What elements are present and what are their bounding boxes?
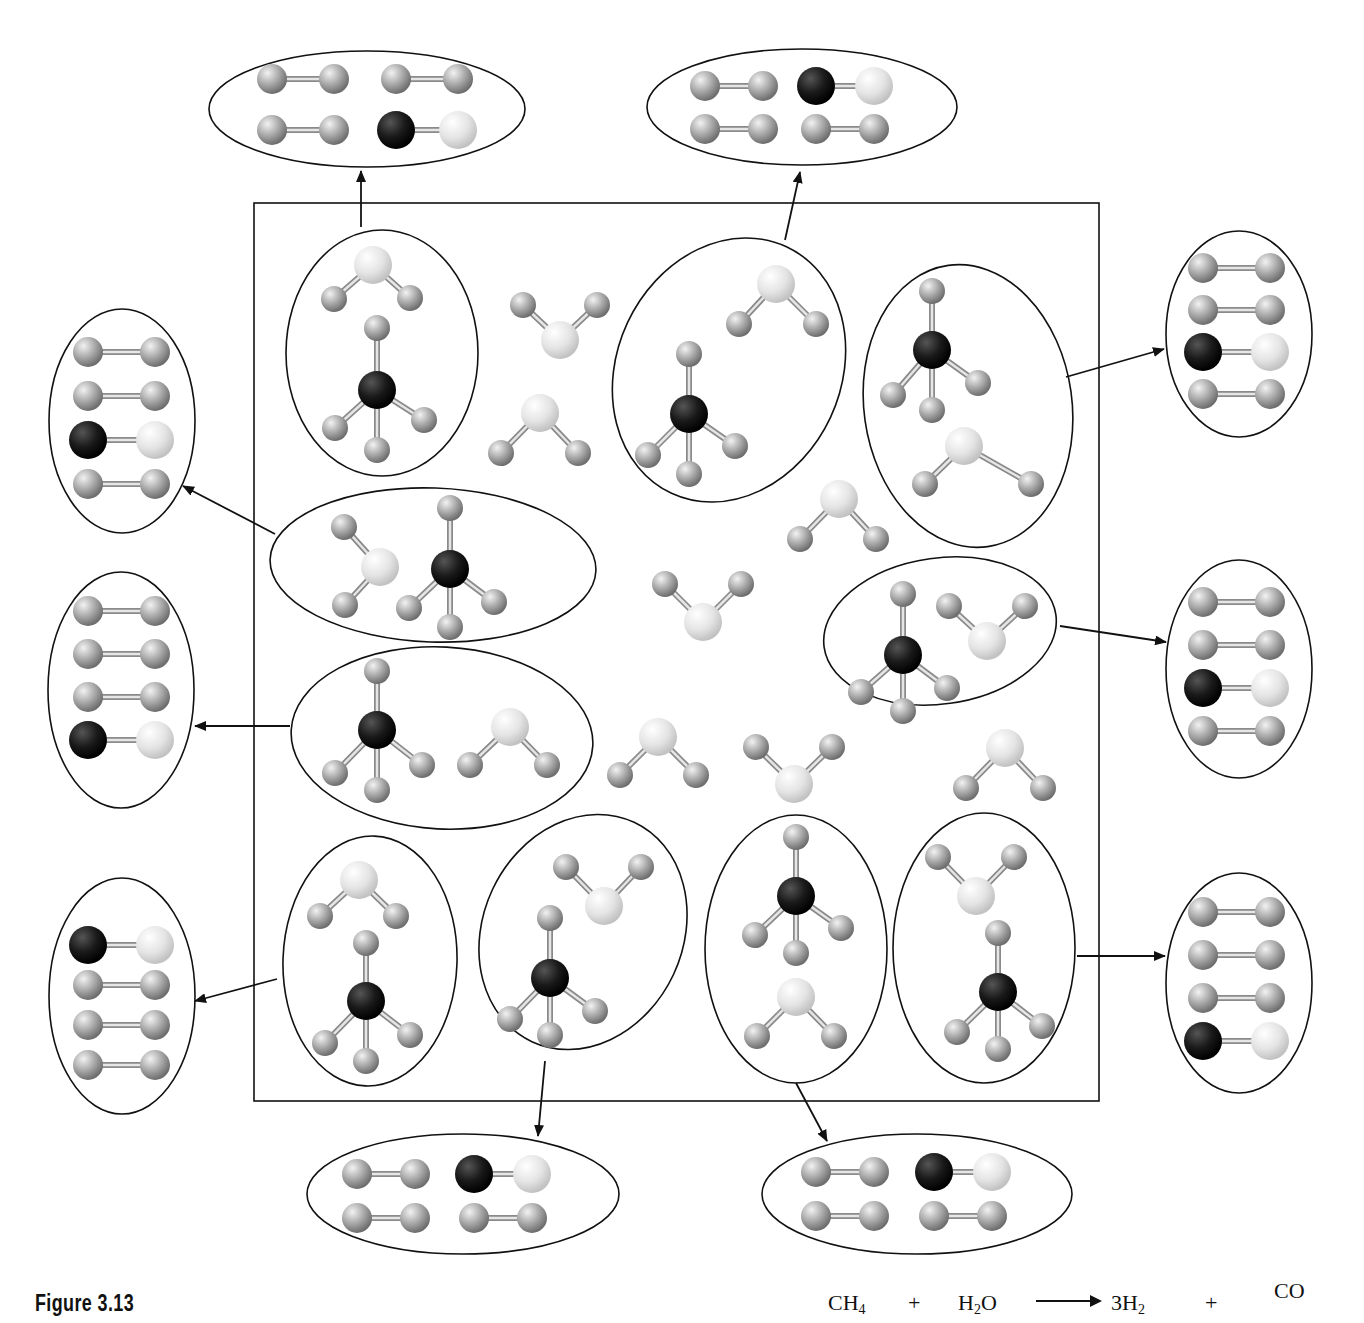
carbon-atom bbox=[455, 1155, 493, 1193]
hydrogen-atom bbox=[140, 381, 170, 411]
hydrogen-atom bbox=[73, 682, 103, 712]
oxygen-atom bbox=[820, 480, 858, 518]
hydrogen-atom bbox=[1255, 379, 1285, 409]
hydrogen-atom bbox=[1255, 940, 1285, 970]
hydrogen-atom bbox=[517, 1203, 547, 1233]
hydrogen-atom bbox=[584, 292, 610, 318]
hydrogen-atom bbox=[73, 596, 103, 626]
carbon-atom bbox=[69, 721, 107, 759]
hydrogen-atom bbox=[1188, 897, 1218, 927]
hydrogen-atom bbox=[925, 844, 951, 870]
oxygen-atom bbox=[957, 877, 995, 915]
product-group-ellipse bbox=[647, 49, 957, 165]
hydrogen-atom bbox=[364, 437, 390, 463]
product-arrow-icon bbox=[538, 1061, 545, 1136]
hydrogen-atom bbox=[73, 639, 103, 669]
hydrogen-atom bbox=[912, 471, 938, 497]
hydrogen-atom bbox=[859, 114, 889, 144]
hydrogen-atom bbox=[1255, 716, 1285, 746]
hydrogen-atom bbox=[1188, 295, 1218, 325]
product-group-ellipse bbox=[1166, 560, 1312, 778]
hydrogen-atom bbox=[787, 526, 813, 552]
carbon-atom bbox=[1184, 333, 1222, 371]
oxygen-atom bbox=[541, 321, 579, 359]
oxygen-atom bbox=[775, 765, 813, 803]
oxygen-atom bbox=[968, 622, 1006, 660]
hydrogen-atom bbox=[1018, 471, 1044, 497]
hydrogen-atom bbox=[742, 922, 768, 948]
hydrogen-atom bbox=[1029, 1013, 1055, 1039]
plus-sign: + bbox=[1205, 1290, 1217, 1316]
hydrogen-atom bbox=[364, 315, 390, 341]
hydrogen-atom bbox=[321, 286, 347, 312]
carbon-atom bbox=[69, 421, 107, 459]
product-carbon-monoxide: CO bbox=[1274, 1278, 1305, 1304]
oxygen-atom bbox=[684, 603, 722, 641]
hydrogen-atom bbox=[801, 1157, 831, 1187]
reactant-group-ellipse bbox=[845, 251, 1091, 561]
hydrogen-atom bbox=[722, 433, 748, 459]
hydrogen-atom bbox=[880, 382, 906, 408]
hydrogen-atom bbox=[676, 461, 702, 487]
hydrogen-atom bbox=[364, 777, 390, 803]
hydrogen-atom bbox=[140, 469, 170, 499]
hydrogen-atom bbox=[676, 341, 702, 367]
hydrogen-atom bbox=[819, 734, 845, 760]
product-group-ellipse bbox=[49, 309, 195, 533]
carbon-atom bbox=[777, 877, 815, 915]
oxygen-atom bbox=[855, 67, 893, 105]
reactant-group-ellipses bbox=[48, 49, 1312, 1254]
hydrogen-atom bbox=[140, 1010, 170, 1040]
hydrogen-atom bbox=[443, 64, 473, 94]
hydrogen-atom bbox=[437, 614, 463, 640]
hydrogen-atom bbox=[1188, 983, 1218, 1013]
bonds bbox=[88, 79, 1270, 1218]
hydrogen-atom bbox=[1188, 379, 1218, 409]
hydrogen-atom bbox=[400, 1203, 430, 1233]
product-arrow-icon bbox=[785, 172, 800, 240]
hydrogen-atom bbox=[322, 415, 348, 441]
carbon-atom bbox=[913, 331, 951, 369]
product-arrow-icon bbox=[183, 486, 275, 534]
hydrogen-atom bbox=[257, 64, 287, 94]
hydrogen-atom bbox=[396, 595, 422, 621]
oxygen-atom bbox=[945, 427, 983, 465]
carbon-atom bbox=[431, 550, 469, 588]
hydrogen-atom bbox=[1188, 716, 1218, 746]
oxygen-atom bbox=[361, 548, 399, 586]
reactant-water: H2O bbox=[958, 1290, 997, 1318]
oxygen-atom bbox=[354, 246, 392, 284]
hydrogen-atom bbox=[140, 596, 170, 626]
hydrogen-atom bbox=[1255, 587, 1285, 617]
hydrogen-atom bbox=[488, 440, 514, 466]
product-group-ellipse bbox=[762, 1134, 1072, 1254]
hydrogen-atom bbox=[919, 1201, 949, 1231]
hydrogen-atom bbox=[936, 593, 962, 619]
hydrogen-atom bbox=[783, 940, 809, 966]
hydrogen-atom bbox=[319, 115, 349, 145]
hydrogen-atom bbox=[140, 337, 170, 367]
hydrogen-atom bbox=[353, 930, 379, 956]
hydrogen-atom bbox=[457, 752, 483, 778]
hydrogen-atom bbox=[859, 1201, 889, 1231]
hydrogen-atom bbox=[332, 592, 358, 618]
carbon-atom bbox=[670, 395, 708, 433]
hydrogen-atom bbox=[582, 998, 608, 1024]
hydrogen-atom bbox=[342, 1159, 372, 1189]
hydrogen-atom bbox=[411, 407, 437, 433]
hydrogen-atom bbox=[1188, 587, 1218, 617]
product-group-ellipse bbox=[307, 1134, 619, 1254]
hydrogen-atom bbox=[1255, 630, 1285, 660]
product-arrows bbox=[183, 171, 1166, 1141]
oxygen-atom bbox=[1251, 333, 1289, 371]
hydrogen-atom bbox=[1255, 253, 1285, 283]
hydrogen-atom bbox=[537, 905, 563, 931]
hydrogen-atom bbox=[353, 1048, 379, 1074]
hydrogen-atom bbox=[312, 1030, 338, 1056]
hydrogen-atom bbox=[919, 278, 945, 304]
carbon-atom bbox=[884, 636, 922, 674]
hydrogen-atom bbox=[73, 337, 103, 367]
hydrogen-atom bbox=[73, 1010, 103, 1040]
product-arrow-icon bbox=[796, 1083, 827, 1141]
hydrogen-atom bbox=[497, 1006, 523, 1032]
